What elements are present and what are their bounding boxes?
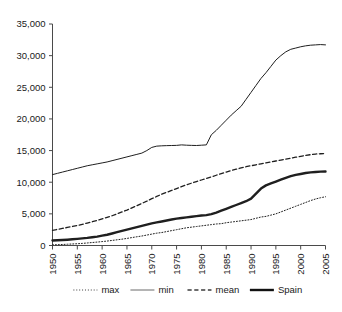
x-axis: 1950195519601965197019751980198519901995… xyxy=(47,246,331,275)
y-tick-label: 10,000 xyxy=(16,177,45,188)
y-axis-tick-labels: 05,00010,00015,00020,00025,00030,00035,0… xyxy=(16,18,45,251)
x-tick-label: 1950 xyxy=(47,254,58,275)
x-tick-label: 2005 xyxy=(320,254,331,275)
y-axis: 05,00010,00015,00020,00025,00030,00035,0… xyxy=(16,18,52,251)
x-tick-label: 1955 xyxy=(72,254,83,275)
x-tick-label: 1965 xyxy=(122,254,133,275)
y-tick-label: 20,000 xyxy=(16,113,45,124)
x-axis-ticks xyxy=(53,246,326,250)
legend-label-min: min xyxy=(158,284,173,295)
line-chart: 05,00010,00015,00020,00025,00030,00035,0… xyxy=(0,0,342,312)
y-tick-label: 30,000 xyxy=(16,50,45,61)
series-line-spain xyxy=(53,171,326,240)
x-tick-label: 1960 xyxy=(97,254,108,275)
x-tick-label: 1970 xyxy=(146,254,157,275)
x-tick-label: 2000 xyxy=(295,254,306,275)
legend-label-max: max xyxy=(101,284,119,295)
x-tick-label: 1980 xyxy=(196,254,207,275)
x-tick-label: 1995 xyxy=(270,254,281,275)
x-tick-label: 1990 xyxy=(246,254,257,275)
y-axis-ticks xyxy=(49,24,53,246)
chart-canvas: 05,00010,00015,00020,00025,00030,00035,0… xyxy=(0,0,342,312)
series-line-min xyxy=(53,45,326,175)
chart-legend: maxminmeanSpain xyxy=(73,284,302,295)
legend-label-spain: Spain xyxy=(278,284,302,295)
y-tick-label: 25,000 xyxy=(16,82,45,93)
legend-label-mean: mean xyxy=(215,284,239,295)
x-tick-label: 1985 xyxy=(221,254,232,275)
y-tick-label: 0 xyxy=(40,240,45,251)
y-tick-label: 35,000 xyxy=(16,18,45,29)
x-tick-label: 1975 xyxy=(171,254,182,275)
y-tick-label: 15,000 xyxy=(16,145,45,156)
y-tick-label: 5,000 xyxy=(22,208,46,219)
data-series-group xyxy=(53,45,326,245)
x-axis-tick-labels: 1950195519601965197019751980198519901995… xyxy=(47,254,331,275)
